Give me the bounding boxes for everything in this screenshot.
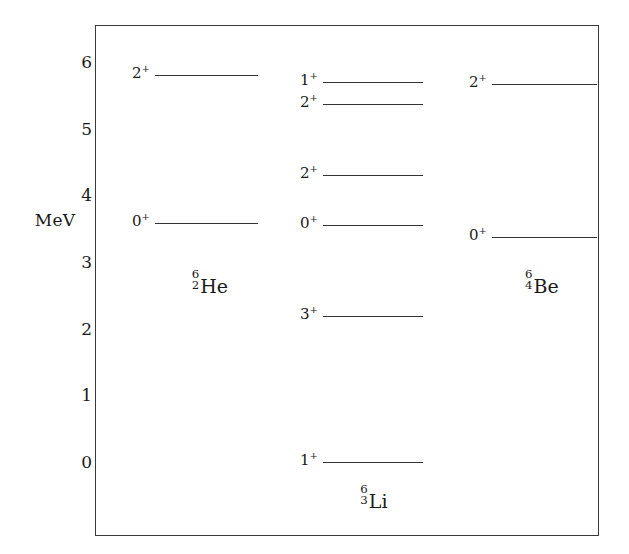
nuclide-caption-be6: 64Be xyxy=(480,274,600,296)
y-tick-label: 0 xyxy=(66,451,92,473)
energy-level-line xyxy=(155,75,258,76)
spin-value: 1 xyxy=(300,71,310,89)
nuclide-atomic-number: 4 xyxy=(525,280,533,292)
energy-level-line xyxy=(492,84,597,85)
y-tick-label: 4 xyxy=(66,184,92,206)
energy-level-label: 1+ xyxy=(284,73,318,88)
parity-value: + xyxy=(310,450,318,461)
parity-value: + xyxy=(310,92,318,103)
energy-level-label: 0+ xyxy=(116,214,150,229)
energy-level-line xyxy=(323,175,423,176)
parity-value: + xyxy=(310,213,318,224)
energy-level-label: 2+ xyxy=(453,75,487,90)
y-tick-label: 6 xyxy=(66,51,92,73)
energy-level-label: 0+ xyxy=(284,216,318,231)
parity-value: + xyxy=(142,211,150,222)
energy-level-label: 1+ xyxy=(284,453,318,468)
parity-value: + xyxy=(479,225,487,236)
spin-value: 0 xyxy=(469,226,479,244)
spin-value: 2 xyxy=(469,73,479,91)
nuclide-caption-li6: 63Li xyxy=(312,489,432,511)
energy-level-line xyxy=(323,462,423,463)
nuclide-indices: 64 xyxy=(521,274,532,293)
energy-level-line xyxy=(323,104,423,105)
nuclide-atomic-number: 2 xyxy=(192,280,200,292)
y-axis-title: MeV xyxy=(24,210,86,230)
nuclide-atomic-number: 3 xyxy=(360,495,368,507)
parity-value: + xyxy=(479,72,487,83)
energy-level-diagram: MeV 0123456 2+0+62He1+2+2+0+3+1+63Li2+0+… xyxy=(0,0,629,554)
energy-level-label: 2+ xyxy=(284,95,318,110)
nuclide-indices: 62 xyxy=(188,274,199,293)
energy-level-line xyxy=(323,82,423,83)
energy-level-label: 2+ xyxy=(116,66,150,81)
spin-value: 0 xyxy=(132,212,142,230)
energy-level-label: 3+ xyxy=(284,307,318,322)
spin-value: 3 xyxy=(300,305,310,323)
energy-level-line xyxy=(155,223,258,224)
y-tick-label: 2 xyxy=(66,318,92,340)
energy-level-label: 0+ xyxy=(453,228,487,243)
nuclide-indices: 63 xyxy=(356,489,367,508)
spin-value: 2 xyxy=(132,64,142,82)
y-tick-label: 3 xyxy=(66,251,92,273)
energy-level-line xyxy=(323,316,423,317)
nuclide-symbol: He xyxy=(200,275,228,297)
spin-value: 1 xyxy=(300,451,310,469)
nuclide-symbol: Be xyxy=(534,275,559,297)
parity-value: + xyxy=(310,70,318,81)
energy-level-label: 2+ xyxy=(284,166,318,181)
y-tick-label: 1 xyxy=(66,384,92,406)
spin-value: 2 xyxy=(300,164,310,182)
nuclide-caption-he6: 62He xyxy=(148,274,268,296)
spin-value: 0 xyxy=(300,214,310,232)
nuclide-symbol: Li xyxy=(369,490,388,512)
parity-value: + xyxy=(310,163,318,174)
energy-level-line xyxy=(492,237,597,238)
energy-level-line xyxy=(323,225,423,226)
y-tick-label: 5 xyxy=(66,118,92,140)
spin-value: 2 xyxy=(300,93,310,111)
parity-value: + xyxy=(310,304,318,315)
parity-value: + xyxy=(142,63,150,74)
